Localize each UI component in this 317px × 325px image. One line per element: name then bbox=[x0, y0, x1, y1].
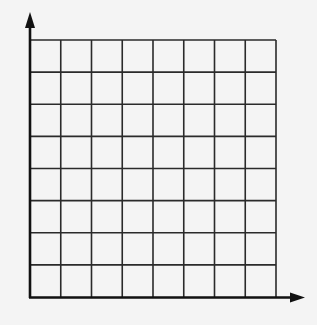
grid-lines bbox=[30, 40, 276, 297]
axes bbox=[25, 12, 305, 303]
y-axis-arrow-icon bbox=[25, 12, 35, 28]
x-axis-arrow-icon bbox=[290, 293, 305, 303]
coordinate-grid bbox=[0, 0, 317, 325]
